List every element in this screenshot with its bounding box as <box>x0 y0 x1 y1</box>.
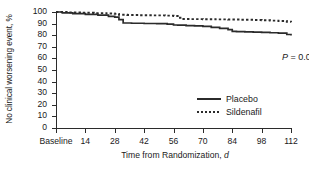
legend-label: Sildenafil <box>226 106 262 118</box>
kaplan-meier-figure: No clinical worsening event, % 010203040… <box>0 0 309 172</box>
y-tick-label: 80 <box>25 29 47 40</box>
y-tick-label: 100 <box>25 6 47 17</box>
x-tick <box>291 129 292 133</box>
y-tick-label: 20 <box>25 99 47 110</box>
p-value-text: = 0.002 <box>288 52 309 62</box>
legend-swatch-dotted-icon <box>197 108 221 116</box>
x-tick <box>174 129 175 133</box>
legend-item-placebo: Placebo <box>197 92 301 105</box>
y-tick-label: 60 <box>25 52 47 63</box>
y-tick-label: 10 <box>25 110 47 121</box>
legend-item-sildenafil: Sildenafil <box>197 105 301 118</box>
y-axis-title: No clinical worsening event, % <box>3 4 15 134</box>
y-tick-label: 90 <box>25 18 47 29</box>
x-axis-title-text: Time from Randomization, <box>121 150 224 160</box>
x-tick <box>56 129 57 133</box>
legend-swatch-solid-icon <box>197 95 221 103</box>
y-tick-label: 30 <box>25 87 47 98</box>
x-tick-label: 70 <box>198 136 208 147</box>
x-tick <box>203 129 204 133</box>
x-tick-label: 84 <box>227 136 237 147</box>
x-tick <box>144 129 145 133</box>
x-axis-unit-symbol: d <box>224 150 229 160</box>
x-tick-label: 42 <box>139 136 149 147</box>
x-tick-label: Baseline <box>40 136 73 147</box>
x-tick-label: 28 <box>110 136 120 147</box>
x-tick-label: 56 <box>169 136 179 147</box>
x-tick <box>85 129 86 133</box>
x-tick-label: 98 <box>257 136 267 147</box>
chart-legend: PlaceboSildenafil <box>197 92 301 118</box>
x-tick <box>232 129 233 133</box>
y-tick-label: 70 <box>25 41 47 52</box>
y-tick-label: 40 <box>25 76 47 87</box>
x-tick-label: 14 <box>81 136 91 147</box>
x-tick-label: 112 <box>284 136 298 147</box>
p-value-annotation: P = 0.002 <box>282 52 309 62</box>
y-tick-label: 0 <box>25 122 47 133</box>
y-tick-label: 50 <box>25 64 47 75</box>
x-tick <box>115 129 116 133</box>
x-tick <box>262 129 263 133</box>
x-axis-title: Time from Randomization, d <box>52 150 298 160</box>
legend-label: Placebo <box>226 93 258 105</box>
